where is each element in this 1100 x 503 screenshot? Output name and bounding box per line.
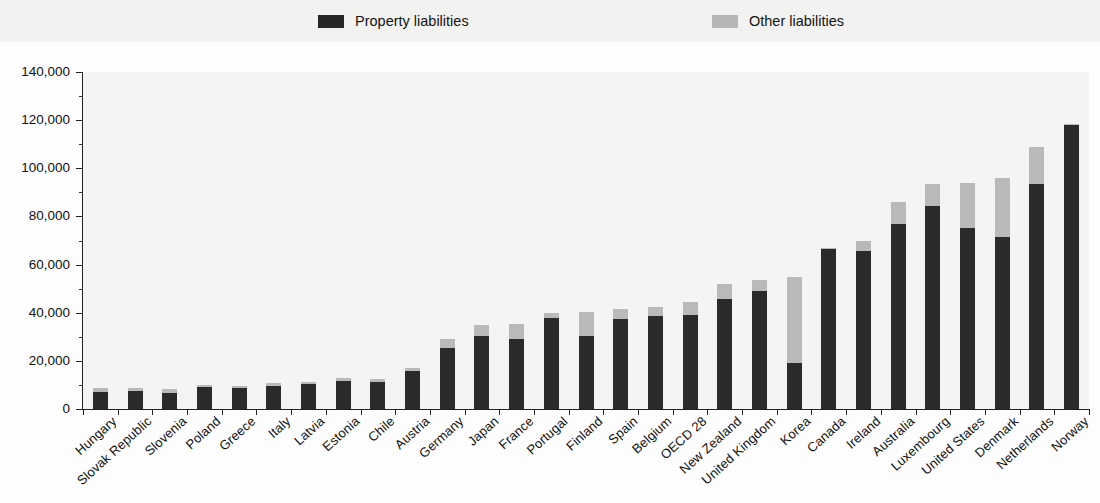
y-axis-tick-label: 140,000 xyxy=(0,64,70,79)
bar-group xyxy=(856,241,871,409)
bar-group xyxy=(336,378,351,409)
bar-segment-property-liabilities xyxy=(648,316,663,409)
bar-segment-property-liabilities xyxy=(683,315,698,409)
x-axis-label: Italy xyxy=(264,412,292,439)
y-axis-major-tick xyxy=(76,72,83,73)
bar-segment-property-liabilities xyxy=(162,393,177,409)
bar-segment-property-liabilities xyxy=(93,392,108,409)
bar-segment-other-liabilities xyxy=(474,325,489,336)
x-axis-tick xyxy=(1089,409,1090,415)
bar-group xyxy=(405,368,420,409)
x-axis-label: Norway xyxy=(1046,412,1089,453)
x-axis-label-text: Poland xyxy=(183,413,224,452)
bar-segment-property-liabilities xyxy=(925,206,940,409)
y-axis-major-tick xyxy=(76,120,83,121)
bar-group xyxy=(474,325,489,409)
y-axis-major-tick xyxy=(76,313,83,314)
bar-segment-property-liabilities xyxy=(821,249,836,409)
chart-root: Property liabilities Other liabilities 0… xyxy=(0,0,1100,503)
y-axis-tick-label: 100,000 xyxy=(0,160,70,175)
bar-segment-property-liabilities xyxy=(891,224,906,409)
y-axis-tick-label: 40,000 xyxy=(0,305,70,320)
bar-segment-property-liabilities xyxy=(405,371,420,410)
bar-segment-other-liabilities xyxy=(856,241,871,252)
y-axis-tick-label: 120,000 xyxy=(0,112,70,127)
bar-segment-property-liabilities xyxy=(544,318,559,409)
y-axis-major-tick xyxy=(76,265,83,266)
bar-group xyxy=(925,184,940,409)
x-axis-label: Greece xyxy=(215,412,257,452)
bar-segment-property-liabilities xyxy=(509,339,524,409)
chart-legend: Property liabilities Other liabilities xyxy=(0,0,1100,42)
bar-segment-property-liabilities xyxy=(787,363,802,409)
bar-segment-other-liabilities xyxy=(613,309,628,319)
legend-swatch-property-icon xyxy=(318,15,344,28)
bar-segment-property-liabilities xyxy=(856,251,871,409)
bar-segment-other-liabilities xyxy=(440,339,455,347)
bar-group xyxy=(544,313,559,409)
x-axis-label: Japan xyxy=(463,412,500,447)
legend-item-property-liabilities: Property liabilities xyxy=(318,12,469,30)
bar-series-container xyxy=(83,72,1089,409)
x-axis-label-text: Finland xyxy=(563,413,605,453)
bar-group xyxy=(370,379,385,409)
legend-swatch-other-icon xyxy=(712,15,738,28)
x-axis-label: Finland xyxy=(562,412,604,452)
x-axis-label-text: Estonia xyxy=(320,413,363,454)
bar-segment-other-liabilities xyxy=(787,277,802,364)
bar-segment-property-liabilities xyxy=(474,336,489,409)
x-axis-category-labels: HungarySlovak RepublicSloveniaPolandGree… xyxy=(82,412,1088,503)
y-axis-major-tick xyxy=(76,168,83,169)
bar-group xyxy=(683,302,698,409)
bar-group xyxy=(648,307,663,409)
bar-group xyxy=(128,388,143,409)
bar-segment-property-liabilities xyxy=(336,381,351,409)
bar-segment-other-liabilities xyxy=(509,324,524,340)
x-axis-label: Estonia xyxy=(318,412,361,453)
y-axis-tick-label: 80,000 xyxy=(0,208,70,223)
y-axis-major-tick xyxy=(76,216,83,217)
bar-segment-property-liabilities xyxy=(995,237,1010,409)
bar-segment-other-liabilities xyxy=(995,178,1010,237)
bar-segment-property-liabilities xyxy=(960,228,975,409)
bar-group xyxy=(960,183,975,409)
bar-segment-property-liabilities xyxy=(752,291,767,409)
legend-item-other-liabilities: Other liabilities xyxy=(712,12,844,30)
x-axis-label: Canada xyxy=(803,412,847,454)
bar-group xyxy=(891,202,906,409)
bar-segment-property-liabilities xyxy=(579,336,594,409)
bar-segment-property-liabilities xyxy=(266,386,281,409)
bar-group xyxy=(93,388,108,409)
bar-group xyxy=(995,178,1010,409)
y-axis-tick-label: 0 xyxy=(0,401,70,416)
bar-segment-other-liabilities xyxy=(648,307,663,317)
bar-segment-property-liabilities xyxy=(370,382,385,409)
legend-label-property: Property liabilities xyxy=(355,14,469,28)
bar-segment-property-liabilities xyxy=(1064,125,1079,409)
x-axis-label-text: Norway xyxy=(1048,413,1091,454)
bar-segment-other-liabilities xyxy=(925,184,940,206)
bar-segment-other-liabilities xyxy=(1029,147,1044,184)
bar-segment-property-liabilities xyxy=(128,391,143,409)
bar-segment-property-liabilities xyxy=(613,319,628,409)
legend-label-other: Other liabilities xyxy=(749,14,844,28)
bar-group xyxy=(579,312,594,409)
bar-segment-property-liabilities xyxy=(301,384,316,409)
x-axis-label-text: Italy xyxy=(265,413,293,440)
bar-group xyxy=(1064,124,1079,409)
bar-segment-property-liabilities xyxy=(197,387,212,409)
bar-group xyxy=(232,386,247,409)
plot-area xyxy=(82,72,1089,410)
y-axis-major-tick xyxy=(76,409,83,410)
bar-group xyxy=(197,385,212,409)
y-axis-tick-label: 60,000 xyxy=(0,257,70,272)
bar-segment-other-liabilities xyxy=(683,302,698,315)
bar-segment-other-liabilities xyxy=(891,202,906,224)
bar-segment-other-liabilities xyxy=(752,280,767,291)
bar-group xyxy=(752,280,767,409)
bar-segment-property-liabilities xyxy=(1029,184,1044,409)
bar-group xyxy=(1029,147,1044,409)
y-axis-major-tick xyxy=(76,361,83,362)
bar-group xyxy=(821,248,836,409)
x-axis-label-text: Greece xyxy=(216,413,258,453)
